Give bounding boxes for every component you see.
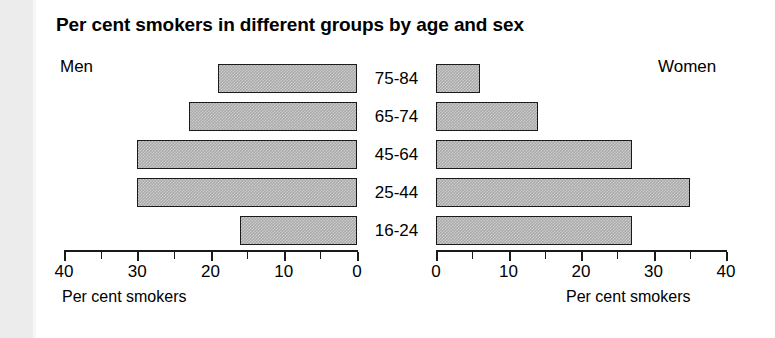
bar-row bbox=[64, 212, 357, 250]
age-group-label-16-24: 16-24 bbox=[357, 212, 436, 250]
men-bars-panel bbox=[64, 60, 357, 250]
axis-tick-major bbox=[137, 252, 139, 261]
right-tick-label-10: 10 bbox=[486, 262, 532, 282]
chart-title: Per cent smokers in different groups by … bbox=[56, 14, 524, 36]
age-group-gutter: 75-8465-7445-6425-4416-24 bbox=[357, 58, 436, 251]
left-tick-label-20: 20 bbox=[188, 262, 234, 282]
left-tick-label-30: 30 bbox=[114, 262, 160, 282]
axis-tick-minor bbox=[174, 252, 175, 259]
axis-tick-major bbox=[436, 252, 438, 261]
right-tick-label-20: 20 bbox=[558, 262, 604, 282]
left-tick-label-10: 10 bbox=[261, 262, 307, 282]
axis-tick-major bbox=[581, 252, 583, 261]
bar-men-25-44 bbox=[137, 178, 357, 207]
bar-men-45-64 bbox=[137, 140, 357, 169]
age-group-label-75-84: 75-84 bbox=[357, 60, 436, 98]
right-tick-label-0: 0 bbox=[413, 262, 459, 282]
axis-tick-minor bbox=[617, 252, 618, 259]
bar-women-65-74 bbox=[436, 102, 538, 131]
smoking-pyramid-chart: Per cent smokers in different groups by … bbox=[0, 0, 775, 338]
axis-tick-major bbox=[726, 252, 728, 261]
axis-tick-major bbox=[284, 252, 286, 261]
axis-tick-major bbox=[357, 252, 359, 261]
bar-women-45-64 bbox=[436, 140, 632, 169]
axis-tick-major bbox=[654, 252, 656, 261]
axis-tick-minor bbox=[472, 252, 473, 259]
bar-row bbox=[436, 212, 726, 250]
bar-women-75-84 bbox=[436, 64, 480, 93]
axis-tick-minor bbox=[101, 252, 102, 259]
bar-row bbox=[436, 98, 726, 136]
bar-men-75-84 bbox=[218, 64, 357, 93]
bar-row bbox=[64, 136, 357, 174]
bar-row bbox=[64, 60, 357, 98]
women-bars-panel bbox=[436, 60, 726, 250]
axis-tick-minor bbox=[320, 252, 321, 259]
bar-women-16-24 bbox=[436, 216, 632, 245]
age-group-label-65-74: 65-74 bbox=[357, 98, 436, 136]
bar-row bbox=[436, 174, 726, 212]
bar-men-65-74 bbox=[189, 102, 357, 131]
axis-tick-major bbox=[211, 252, 213, 261]
age-group-label-25-44: 25-44 bbox=[357, 174, 436, 212]
axis-tick-minor bbox=[690, 252, 691, 259]
age-group-label-45-64: 45-64 bbox=[357, 136, 436, 174]
left-tick-label-40: 40 bbox=[41, 262, 87, 282]
scan-margin-strip bbox=[0, 0, 33, 338]
axis-tick-major bbox=[64, 252, 66, 261]
bar-men-16-24 bbox=[240, 216, 357, 245]
axis-tick-major bbox=[509, 252, 511, 261]
axis-tick-minor bbox=[545, 252, 546, 259]
axis-tick-minor bbox=[247, 252, 248, 259]
right-tick-label-30: 30 bbox=[631, 262, 677, 282]
right-axis-title: Per cent smokers bbox=[566, 288, 690, 306]
bar-women-25-44 bbox=[436, 178, 690, 207]
bar-row bbox=[64, 98, 357, 136]
bar-row bbox=[436, 60, 726, 98]
right-tick-label-40: 40 bbox=[703, 262, 749, 282]
left-tick-label-0: 0 bbox=[334, 262, 380, 282]
scan-margin-edge bbox=[33, 0, 36, 338]
bar-row bbox=[436, 136, 726, 174]
left-axis-title: Per cent smokers bbox=[62, 288, 186, 306]
bar-row bbox=[64, 174, 357, 212]
